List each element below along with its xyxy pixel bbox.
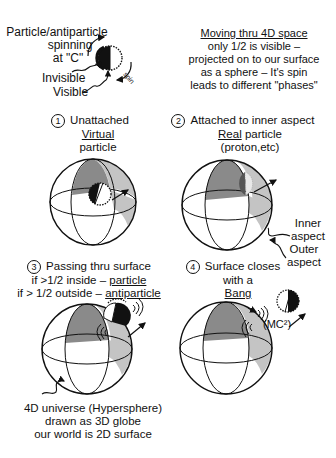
panel-4-bang: Bang	[178, 287, 288, 300]
panel-3-outside-text: if > 1/2 outside –	[17, 287, 105, 299]
panel-3-inside-text: if >1/2 inside –	[32, 274, 110, 286]
panel-4-line1: Surface closes	[205, 260, 280, 272]
outer-aspect-pointer-icon	[270, 240, 286, 258]
inner-aspect-pointer-icon	[268, 228, 290, 236]
outer-aspect-line2: aspect	[287, 256, 321, 269]
panel-4-heading: 4Surface closes with a Bang	[178, 260, 288, 300]
panel-3-particle: particle	[109, 274, 146, 286]
panel-2-heading: 2Attached to inner aspect Real particle …	[150, 114, 336, 154]
panel-2-line3: (proton,etc)	[150, 141, 336, 154]
panel-2-real: Real	[218, 128, 242, 140]
energy-label: (MC²)	[263, 318, 291, 331]
panel-3-line2: if >1/2 inside – particle	[14, 274, 164, 287]
panel-2-line2: Real particle	[150, 128, 336, 141]
panel-1-line1: Unattached	[70, 114, 129, 126]
invisible-label: Invisible	[42, 72, 85, 85]
panel-1-title: 1Unattached	[40, 114, 140, 128]
caption-line3: our world is 2D surface	[18, 428, 168, 441]
outer-aspect-line1: Outer	[287, 243, 321, 256]
panel-1-line3: particle	[40, 141, 140, 154]
particle-title-line3: at "C"	[2, 52, 112, 65]
panel-3-line3: if > 1/2 outside – antiparticle	[14, 287, 164, 300]
sphere-1-icon	[50, 159, 136, 245]
panel-4-title: 4Surface closes	[178, 260, 288, 274]
panel-2-number: 2	[171, 114, 185, 128]
sphere-2-icon	[182, 159, 276, 250]
moving-line3: projected on to our surface	[172, 53, 336, 66]
panel-4-number: 4	[186, 260, 200, 274]
panel-3-number: 3	[27, 260, 41, 274]
panel-4-line2: with a	[178, 274, 288, 287]
inner-aspect-label: Inner aspect	[291, 217, 325, 243]
hypersphere-pointer-icon	[42, 380, 64, 394]
panel-3-heading: 3Passing thru surface if >1/2 inside – p…	[14, 260, 164, 300]
panel-1-line2: Virtual	[40, 128, 140, 141]
moving-line4: as a sphere – It's spin	[172, 66, 336, 79]
sphere-4-icon	[180, 302, 272, 394]
caption-line2: drawn as 3D globe	[18, 415, 168, 428]
panel-2-particle: particle	[242, 128, 282, 140]
moving-description: Moving thru 4D space only 1/2 is visible…	[172, 27, 336, 92]
panel-3-antiparticle: antiparticle	[105, 287, 161, 299]
emission-arrow-icon	[289, 314, 305, 327]
inner-aspect-line2: aspect	[291, 230, 325, 243]
inner-aspect-line1: Inner	[291, 217, 325, 230]
moving-line2: only 1/2 is visible –	[172, 40, 336, 53]
panel-1-number: 1	[51, 114, 65, 128]
sphere-3-icon	[42, 299, 145, 394]
panel-3-line1: Passing thru surface	[46, 260, 151, 272]
outer-aspect-label: Outer aspect	[287, 243, 321, 269]
particle-title: Particle/antiparticle spinning at "C"	[2, 26, 112, 65]
moving-heading: Moving thru 4D space	[172, 27, 336, 40]
panel-2-line1: Attached to inner aspect	[190, 114, 314, 126]
hypersphere-caption: 4D universe (Hypersphere) drawn as 3D gl…	[18, 402, 168, 441]
panel-2-title: 2Attached to inner aspect	[150, 114, 336, 128]
caption-line1: 4D universe (Hypersphere)	[18, 402, 168, 415]
panel-3-title: 3Passing thru surface	[14, 260, 164, 274]
panel-1-heading: 1Unattached Virtual particle	[40, 114, 140, 154]
visible-label: Visible	[53, 86, 88, 99]
moving-line5: leads to different "phases"	[172, 79, 336, 92]
